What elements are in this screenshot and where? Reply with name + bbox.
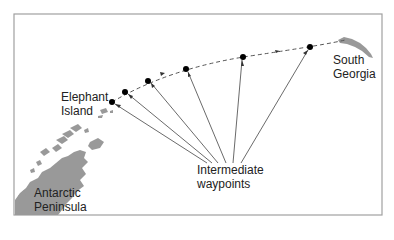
waypoint-marker xyxy=(145,78,151,84)
label-peninsula: Peninsula xyxy=(34,201,87,214)
label-waypoints: waypoints xyxy=(197,178,250,191)
label-intermediate: Intermediate xyxy=(197,164,264,177)
waypoint-marker xyxy=(122,89,128,95)
waypoint-marker xyxy=(240,54,246,60)
elephant-island-landmass xyxy=(98,108,113,118)
label-antarctic: Antarctic xyxy=(34,187,81,200)
label-elephant: Elephant xyxy=(61,91,108,104)
label-georgia: Georgia xyxy=(333,68,376,81)
waypoint-marker xyxy=(183,66,189,72)
annotation-arrows xyxy=(115,50,308,163)
waypoint-marker xyxy=(307,44,313,50)
waypoint-marker xyxy=(109,99,115,105)
waypoint-markers xyxy=(109,44,313,105)
label-south: South xyxy=(333,54,364,67)
route-arrowheads xyxy=(160,50,280,76)
label-island: Island xyxy=(61,105,93,118)
